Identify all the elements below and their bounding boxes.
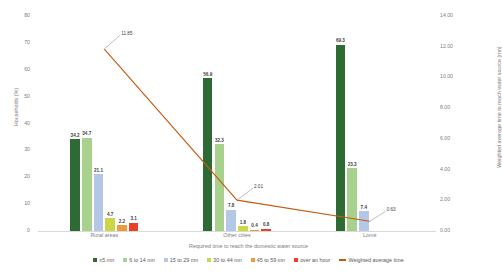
bar[interactable]: 4.7	[105, 218, 115, 231]
legend-item[interactable]: 30 to 44 mn	[207, 257, 241, 263]
legend-label: 6 to 14 mn	[129, 257, 154, 263]
line-value-label: 2.01	[254, 185, 263, 190]
bar-value-label: 7.8	[228, 204, 234, 209]
y-axis-left-tick: 30	[24, 148, 30, 153]
bar-value-label: 32.3	[215, 139, 224, 144]
y-axis-left-tick: 70	[24, 40, 30, 45]
bar[interactable]: 32.3	[215, 144, 225, 231]
chart-legend: ≤5 mn6 to 14 mn15 to 29 mn30 to 44 mn45 …	[0, 257, 497, 263]
y-axis-right-tick: 10.00	[440, 75, 453, 80]
y-axis-right-tick: 6.00	[440, 136, 450, 141]
y-axis-right-title: Weighted average time to reach water sou…	[496, 14, 502, 200]
bar[interactable]: 0.4	[250, 230, 260, 231]
x-axis-title: Required time to reach the domestic wate…	[0, 243, 497, 249]
y-axis-right-tick: 0.00	[440, 228, 450, 233]
bar[interactable]: 21.1	[94, 174, 104, 231]
bar[interactable]: 7.4	[359, 211, 369, 231]
legend-item[interactable]: over an hour	[294, 257, 330, 263]
bar-group: 34.234.721.14.72.23.1	[38, 16, 171, 231]
legend-color-swatch	[164, 258, 168, 262]
bar-value-label: 34.2	[71, 134, 80, 139]
bar[interactable]: 0.8	[261, 229, 271, 231]
y-axis-right-tick: 12.00	[440, 44, 453, 49]
bar-value-label: 0.8	[263, 223, 269, 228]
legend-item[interactable]: 6 to 14 mn	[123, 257, 154, 263]
y-axis-left-tick: 10	[24, 202, 30, 207]
legend-item[interactable]: 45 to 59 mn	[251, 257, 285, 263]
x-axis-category-label: Lomé	[363, 232, 377, 238]
y-axis-left-tick: 60	[24, 67, 30, 72]
bar-value-label: 0.4	[251, 224, 257, 229]
legend-label: over an hour	[300, 257, 330, 263]
bar-value-label: 4.7	[107, 213, 113, 218]
legend-label: 15 to 29 mn	[170, 257, 198, 263]
bar-value-label: 69.3	[336, 39, 345, 44]
legend-label: 30 to 44 mn	[213, 257, 241, 263]
bar[interactable]: 69.3	[336, 45, 346, 231]
y-axis-left-title: Households (%)	[13, 47, 19, 167]
bar-group: 56.932.37.81.80.40.8	[171, 16, 304, 231]
legend-color-swatch	[93, 258, 97, 262]
bar-group: 69.323.37.4	[303, 16, 436, 231]
y-axis-left-tick: 40	[24, 121, 30, 126]
bar[interactable]: 2.2	[117, 225, 127, 231]
bar-value-label: 1.8	[240, 221, 246, 226]
x-axis-category-label: Other cities	[223, 232, 250, 238]
y-axis-right-ticks: 0.002.004.006.008.0010.0012.0014.00	[440, 16, 466, 231]
bar[interactable]: 34.7	[82, 138, 92, 231]
y-axis-left-tick: 0	[27, 228, 30, 233]
bar-value-label: 21.1	[94, 169, 103, 174]
legend-item[interactable]: ≤5 mn	[93, 257, 114, 263]
y-axis-right-tick: 14.00	[440, 13, 453, 18]
bar-value-label: 3.1	[130, 217, 136, 222]
bar-value-label: 7.4	[361, 206, 367, 211]
bar[interactable]: 56.9	[203, 78, 213, 231]
legend-color-swatch	[294, 258, 298, 262]
legend-item[interactable]: Weighted average time	[339, 257, 403, 263]
y-axis-right-tick: 8.00	[440, 106, 450, 111]
bar[interactable]: 34.2	[70, 139, 80, 231]
y-axis-right-tick: 2.00	[440, 198, 450, 203]
x-axis-category-label: Rural areas	[90, 232, 118, 238]
y-axis-left-tick: 80	[24, 13, 30, 18]
legend-color-swatch	[123, 258, 127, 262]
bar[interactable]: 7.8	[226, 210, 236, 231]
legend-label: 45 to 59 mn	[257, 257, 285, 263]
bar[interactable]: 1.8	[238, 226, 248, 231]
y-axis-left-tick: 50	[24, 94, 30, 99]
legend-color-swatch	[207, 258, 211, 262]
legend-label: ≤5 mn	[99, 257, 114, 263]
legend-color-swatch	[251, 258, 255, 262]
y-axis-left-tick: 20	[24, 175, 30, 180]
legend-label: Weighted average time	[348, 257, 403, 263]
bar[interactable]: 3.1	[129, 223, 139, 231]
y-axis-right-tick: 4.00	[440, 167, 450, 172]
bar-value-label: 23.3	[348, 163, 357, 168]
line-value-label: 0.63	[387, 208, 396, 213]
bar-value-label: 34.7	[82, 132, 91, 137]
bar[interactable]: 23.3	[347, 168, 357, 231]
legend-item[interactable]: 15 to 29 mn	[164, 257, 198, 263]
line-value-label: 11.85	[121, 32, 132, 37]
bar-value-label: 2.2	[119, 220, 125, 225]
legend-line-marker	[339, 259, 346, 260]
bar-value-label: 56.9	[203, 73, 212, 78]
plot-area: 34.234.721.14.72.23.156.932.37.81.80.40.…	[38, 16, 436, 231]
